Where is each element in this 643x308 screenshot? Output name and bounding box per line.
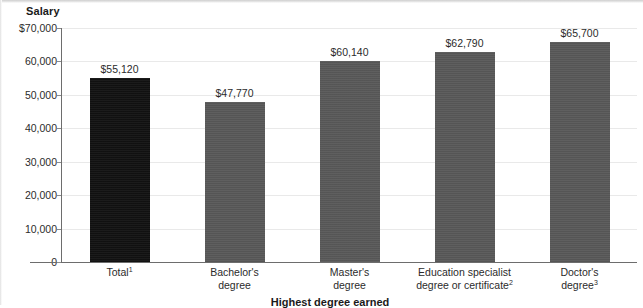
y-axis-tick-mark (57, 61, 61, 62)
bar[interactable] (550, 42, 610, 262)
y-axis-tick-mark (57, 262, 61, 263)
x-axis-title: Highest degree earned (271, 296, 390, 308)
bar-value-label: $47,770 (216, 87, 254, 99)
y-axis-tick-mark (57, 28, 61, 29)
y-axis-tick-mark (57, 229, 61, 230)
y-axis-tick-mark (57, 162, 61, 163)
y-axis-tick-labels: $70,00060,00050,00040,00030,00020,00010,… (0, 0, 57, 305)
bar-value-label: $62,790 (446, 37, 484, 49)
bar[interactable] (320, 61, 380, 262)
y-axis-tick-label: 30,000 (1, 156, 57, 168)
y-axis-tick-label: $70,000 (1, 22, 57, 34)
y-axis-tick-mark (57, 95, 61, 96)
bar-value-label: $65,700 (561, 27, 599, 39)
x-axis-line (30, 262, 637, 263)
gridline (62, 28, 637, 29)
bar[interactable] (205, 102, 265, 262)
plot-area (62, 28, 637, 262)
bar-value-label: $60,140 (331, 46, 369, 58)
scan-edge-top (0, 0, 643, 3)
x-axis-category-label: Doctor'sdegree3 (512, 266, 643, 291)
y-axis-tick-label: 40,000 (1, 122, 57, 134)
bar[interactable] (90, 78, 150, 262)
y-axis-tick-label: 10,000 (1, 223, 57, 235)
y-axis-tick-label: 50,000 (1, 89, 57, 101)
bar[interactable] (435, 52, 495, 262)
y-axis-tick-label: 20,000 (1, 189, 57, 201)
y-axis-tick-label: 60,000 (1, 55, 57, 67)
bar-value-label: $55,120 (101, 63, 139, 75)
y-axis-tick-mark (57, 195, 61, 196)
y-axis-tick-mark (57, 128, 61, 129)
